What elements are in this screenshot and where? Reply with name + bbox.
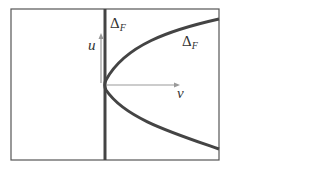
label-v: v (177, 86, 184, 101)
u-arrowhead-icon (99, 33, 104, 39)
label-delta-f-curve: ΔF (182, 34, 198, 51)
parabola-curve (105, 19, 220, 149)
label-u: u (88, 38, 96, 53)
label-delta-f-vertical: ΔF (110, 16, 126, 33)
